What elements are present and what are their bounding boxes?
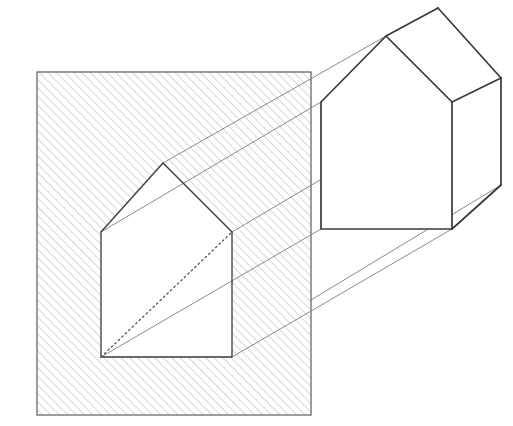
figure-canvas: Perspective projection of a house-shaped… (0, 0, 513, 426)
projection-diagram: Perspective projection of a house-shaped… (0, 0, 513, 426)
